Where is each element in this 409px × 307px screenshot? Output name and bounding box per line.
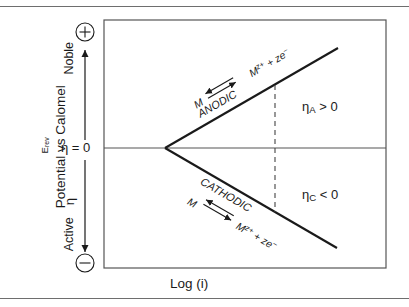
eta-cathodic-annotation: ηC < 0 (302, 188, 338, 203)
eta-anodic-subscript: A (309, 104, 315, 115)
eta-cathodic-subscript: C (309, 192, 316, 203)
eta-anodic-annotation: ηA > 0 (302, 100, 338, 115)
eta-anodic-relation: > 0 (319, 99, 337, 114)
eta-cathodic-relation: < 0 (320, 187, 338, 202)
x-axis-title: Log (i) (170, 277, 208, 291)
minus-sign-icon (76, 254, 94, 272)
erev-symbol: E (39, 147, 50, 153)
eta-zero-label: η = 0 (61, 141, 90, 154)
noble-label: Noble (63, 30, 76, 86)
anodic-branch-line (165, 48, 338, 148)
eta-label: η (63, 192, 76, 212)
active-label: Active (63, 205, 76, 263)
erev-subscript: rev (43, 137, 50, 147)
evans-diagram-figure: Potential vs Calomel Noble Active Erev η… (0, 0, 409, 307)
erev-label: Erev (40, 128, 51, 162)
plus-sign-icon (76, 23, 94, 41)
